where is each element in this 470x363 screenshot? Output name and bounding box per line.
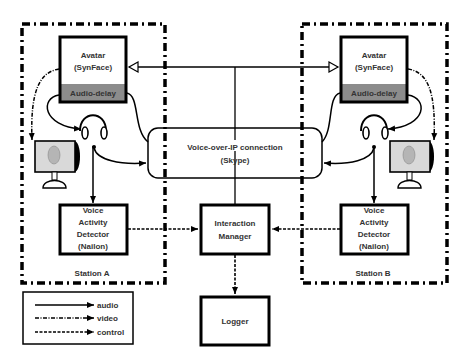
avatar-a-box: Avatar (SynFace) Audio-delay <box>60 37 126 102</box>
legend-video-label: video <box>97 314 118 323</box>
avatar-a-title: Avatar <box>81 51 106 60</box>
interaction-manager-line1: Interaction <box>215 219 256 228</box>
vad-a-box: Voice Activity Detector (Nailon) <box>60 205 127 254</box>
station-b-label: Station B <box>355 269 390 278</box>
avatar-b-subtitle: (SynFace) <box>355 63 394 72</box>
control-line-to-avatars <box>129 67 338 205</box>
avatar-a-subtitle: (SynFace) <box>74 63 113 72</box>
avatar-b-title: Avatar <box>362 51 387 60</box>
vad-b-line2: Activity <box>360 218 389 227</box>
audio-delay-a-label: Audio-delay <box>70 89 116 98</box>
legend-audio-label: audio <box>97 301 118 310</box>
vad-b-box: Voice Activity Detector (Nailon) <box>341 205 408 254</box>
interaction-manager-box: Interaction Manager <box>201 205 269 254</box>
vad-a-line3: Detector <box>77 230 109 239</box>
vad-a-line1: Voice <box>83 206 104 215</box>
system-diagram: Station A Station B Avatar (SynFace) Aud… <box>0 0 470 363</box>
vad-b-line3: Detector <box>358 230 390 239</box>
vad-b-line4: (Nailon) <box>359 242 389 251</box>
legend: audio video control <box>23 292 133 344</box>
logger-label: Logger <box>221 317 248 326</box>
monitor-b-icon <box>390 141 434 188</box>
vad-a-line4: (Nailon) <box>78 242 108 251</box>
monitor-a-icon <box>35 141 80 188</box>
station-a-label: Station A <box>75 269 110 278</box>
voip-line2: (Skype) <box>221 156 250 165</box>
audio-delay-b-label: Audio-delay <box>351 89 397 98</box>
logger-box: Logger <box>201 297 269 345</box>
voip-line1: Voice-over-IP connection <box>187 143 282 152</box>
headset-b-icon <box>361 115 388 139</box>
interaction-manager-line2: Manager <box>219 232 252 241</box>
vad-a-line2: Activity <box>79 218 108 227</box>
vad-b-line1: Voice <box>364 206 385 215</box>
legend-control-label: control <box>97 328 124 337</box>
avatar-b-box: Avatar (SynFace) Audio-delay <box>341 37 407 102</box>
headset-a-icon <box>80 115 107 139</box>
